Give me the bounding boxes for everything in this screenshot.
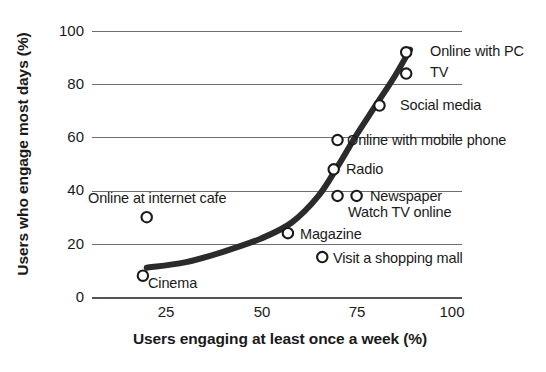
- x-tick-25: 25: [144, 303, 188, 320]
- y-tick-40: 40: [44, 181, 84, 198]
- marker-radio: [329, 164, 339, 174]
- scatter-chart: 100 80 60 40 20 0 25 50 75 100 Users who…: [0, 0, 546, 372]
- marker-online-with-mobile-phone: [332, 135, 342, 145]
- point-label-magazine: Magazine: [300, 226, 362, 242]
- point-label-online-with-mobile-phone: Online with mobile phone: [347, 132, 506, 148]
- point-label-visit-a-shopping-mall: Visit a shopping mall: [333, 250, 463, 266]
- marker-cinema: [138, 271, 148, 281]
- trend-line: [147, 50, 410, 268]
- x-axis-title: Users engaging at least once a week (%): [97, 330, 463, 348]
- marker-visit-a-shopping-mall: [317, 252, 327, 262]
- x-tick-100: 100: [430, 303, 474, 320]
- point-label-radio: Radio: [346, 161, 383, 177]
- y-tick-80: 80: [44, 75, 84, 92]
- y-axis-title: Users who engage most days (%): [10, 4, 36, 304]
- point-label-newspaper: Newspaper: [370, 188, 442, 204]
- y-tick-20: 20: [44, 235, 84, 252]
- y-tick-0: 0: [44, 288, 84, 305]
- y-tick-100: 100: [44, 22, 84, 39]
- point-label-tv: TV: [430, 64, 448, 80]
- point-label-watch-tv-online: Watch TV online: [348, 204, 451, 220]
- x-tick-50: 50: [240, 303, 284, 320]
- marker-online-at-internet-cafe: [142, 212, 152, 222]
- y-tick-60: 60: [44, 128, 84, 145]
- marker-watch-tv-online: [332, 191, 342, 201]
- point-label-online-at-internet-cafe: Online at internet cafe: [88, 190, 226, 206]
- point-label-online-with-pc: Online with PC: [430, 43, 524, 59]
- marker-newspaper: [351, 191, 361, 201]
- marker-social-media: [374, 100, 384, 110]
- point-label-social-media: Social media: [400, 97, 481, 113]
- marker-magazine: [283, 228, 293, 238]
- point-label-cinema: Cinema: [148, 275, 197, 291]
- x-tick-75: 75: [335, 303, 379, 320]
- marker-online-with-pc: [401, 47, 411, 57]
- marker-tv: [401, 68, 411, 78]
